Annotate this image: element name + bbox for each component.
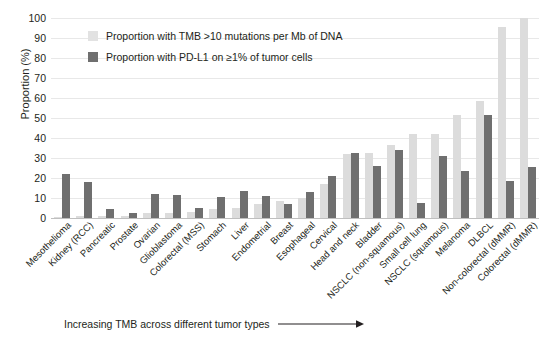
legend-item: Proportion with TMB >10 mutations per Mb… bbox=[88, 30, 342, 42]
chart-figure: Proportion (%) 0102030405060708090100 Pr… bbox=[0, 0, 547, 348]
y-axis-tick-label: 60 bbox=[34, 93, 46, 104]
bar-tmb bbox=[298, 198, 306, 218]
bar-group bbox=[428, 18, 450, 218]
y-axis-tick-label: 30 bbox=[34, 153, 46, 164]
bar-pdl1 bbox=[395, 150, 403, 218]
bar-pdl1 bbox=[506, 181, 514, 218]
bar-tmb bbox=[498, 27, 506, 218]
bar-group bbox=[384, 18, 406, 218]
bar-pdl1 bbox=[373, 166, 381, 218]
y-axis-title: Proportion (%) bbox=[19, 4, 31, 164]
caption-text: Increasing TMB across different tumor ty… bbox=[64, 318, 270, 330]
bar-pdl1 bbox=[151, 194, 159, 218]
bar-pdl1 bbox=[262, 196, 270, 218]
y-axis-tick-label: 50 bbox=[34, 113, 46, 124]
bar-tmb bbox=[365, 153, 373, 218]
bar-pdl1 bbox=[439, 156, 447, 218]
y-axis-tick-label: 90 bbox=[34, 33, 46, 44]
bar-tmb bbox=[453, 115, 461, 218]
bar-tmb bbox=[276, 201, 284, 218]
bar-group bbox=[339, 18, 361, 218]
bar-tmb bbox=[254, 204, 262, 218]
bar-tmb bbox=[121, 216, 129, 218]
bar-pdl1 bbox=[240, 191, 248, 218]
legend-label: Proportion with PD-L1 on ≥1% of tumor ce… bbox=[106, 51, 313, 63]
bar-pdl1 bbox=[417, 203, 425, 218]
bar-pdl1 bbox=[129, 213, 137, 218]
chart-legend: Proportion with TMB >10 mutations per Mb… bbox=[88, 30, 342, 72]
bar-tmb bbox=[409, 134, 417, 218]
bar-pdl1 bbox=[284, 204, 292, 218]
y-axis-tick-label: 100 bbox=[28, 13, 46, 24]
bar-tmb bbox=[431, 134, 439, 218]
bar-group bbox=[517, 18, 539, 218]
bar-group bbox=[495, 18, 517, 218]
bar-group bbox=[406, 18, 428, 218]
legend-label: Proportion with TMB >10 mutations per Mb… bbox=[106, 30, 342, 42]
y-axis-tick-label: 40 bbox=[34, 133, 46, 144]
y-axis-tick-label: 20 bbox=[34, 173, 46, 184]
bar-pdl1 bbox=[84, 182, 92, 218]
y-axis-tick-label: 80 bbox=[34, 53, 46, 64]
bar-pdl1 bbox=[351, 153, 359, 218]
bar-tmb bbox=[98, 216, 106, 218]
y-axis-tick-label: 70 bbox=[34, 73, 46, 84]
bar-tmb bbox=[520, 18, 528, 218]
y-axis-tick-label: 0 bbox=[40, 213, 46, 224]
bar-tmb bbox=[76, 216, 84, 218]
bar-tmb bbox=[165, 213, 173, 218]
legend-swatch-tmb bbox=[88, 31, 98, 41]
bar-group bbox=[362, 18, 384, 218]
bar-pdl1 bbox=[106, 209, 114, 218]
bar-group bbox=[450, 18, 472, 218]
legend-swatch-pdl1 bbox=[88, 52, 98, 62]
bar-pdl1 bbox=[461, 171, 469, 218]
bar-pdl1 bbox=[306, 192, 314, 218]
bar-tmb bbox=[476, 101, 484, 218]
bar-pdl1 bbox=[195, 208, 203, 218]
bar-tmb bbox=[320, 184, 328, 218]
bar-tmb bbox=[54, 217, 62, 218]
x-axis-caption: Increasing TMB across different tumor ty… bbox=[64, 318, 364, 330]
bar-pdl1 bbox=[528, 167, 536, 218]
bar-tmb bbox=[387, 145, 395, 218]
bar-tmb bbox=[187, 212, 195, 218]
bar-pdl1 bbox=[173, 195, 181, 218]
y-axis-tick-label: 10 bbox=[34, 193, 46, 204]
bar-pdl1 bbox=[484, 115, 492, 218]
gridline bbox=[51, 218, 539, 219]
right-arrow-icon bbox=[278, 319, 364, 329]
bar-tmb bbox=[209, 209, 217, 218]
bar-pdl1 bbox=[62, 174, 70, 218]
bar-tmb bbox=[143, 213, 151, 218]
bar-tmb bbox=[343, 154, 351, 218]
legend-item: Proportion with PD-L1 on ≥1% of tumor ce… bbox=[88, 51, 342, 63]
bar-tmb bbox=[232, 208, 240, 218]
bar-pdl1 bbox=[328, 176, 336, 218]
bar-group bbox=[51, 18, 73, 218]
bar-group bbox=[473, 18, 495, 218]
bar-pdl1 bbox=[217, 197, 225, 218]
